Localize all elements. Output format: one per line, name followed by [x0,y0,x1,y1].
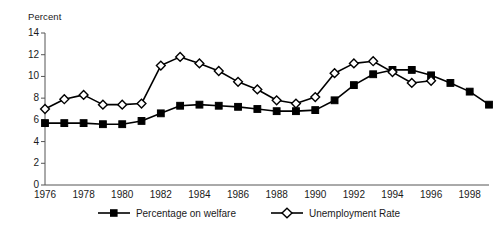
x-tick-label: 1988 [260,189,294,200]
y-tick-label: 2 [21,157,39,168]
x-tick-label: 1998 [453,189,487,200]
x-tick-label: 1976 [28,189,62,200]
line-chart: Percent 02468101214 19761978198019821984… [0,0,497,230]
y-tick-label: 6 [21,114,39,125]
y-tick-label: 14 [21,27,39,38]
legend-label: Unemployment Rate [309,208,400,219]
y-tick-label: 8 [21,92,39,103]
open-diamond-icon [270,207,304,219]
x-tick-label: 1980 [105,189,139,200]
legend-item-unemployment[interactable]: Unemployment Rate [270,207,400,219]
legend-label: Percentage on welfare [136,208,236,219]
y-tick-label: 12 [21,49,39,60]
filled-square-icon [97,207,131,219]
data-series-group [41,52,493,127]
chart-legend: Percentage on welfareUnemployment Rate [0,203,497,223]
y-tick-label: 10 [21,70,39,81]
axis-lines [45,33,489,185]
x-tick-label: 1986 [221,189,255,200]
x-tick-label: 1992 [337,189,371,200]
x-tick-label: 1994 [375,189,409,200]
x-tick-label: 1982 [144,189,178,200]
y-tick-label: 4 [21,136,39,147]
legend-item-welfare[interactable]: Percentage on welfare [97,207,236,219]
x-tick-label: 1978 [67,189,101,200]
x-tick-label: 1996 [414,189,448,200]
x-tick-label: 1984 [182,189,216,200]
x-tick-label: 1990 [298,189,332,200]
